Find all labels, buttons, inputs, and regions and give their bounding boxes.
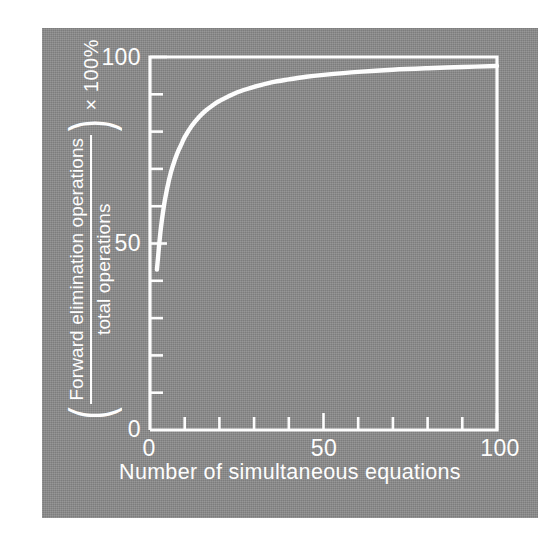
y-tick-label-0: 0 bbox=[128, 416, 141, 442]
fraction-denominator: total operations bbox=[94, 200, 115, 338]
x-tick-label-0: 0 bbox=[142, 435, 155, 461]
x-axis-ticks bbox=[185, 413, 497, 430]
x-axis-title: Number of simultaneous equations bbox=[42, 460, 538, 485]
data-curve-forward-elimination bbox=[157, 66, 497, 270]
figure-panel: 100 50 0 0 50 100 Number of simultaneous… bbox=[42, 28, 538, 518]
y-axis-title: ( Forward elimination operations total o… bbox=[61, 35, 121, 425]
y-axis-multiplier: × 100% bbox=[80, 39, 103, 110]
x-tick-label-50: 50 bbox=[311, 435, 337, 461]
x-tick-label-100: 100 bbox=[480, 435, 520, 461]
figure-page: 100 50 0 0 50 100 Number of simultaneous… bbox=[0, 0, 557, 545]
fraction-numerator: Forward elimination operations bbox=[67, 135, 88, 404]
y-axis-ticks bbox=[150, 57, 167, 393]
fraction-bar bbox=[90, 135, 92, 404]
y-axis-fraction: Forward elimination operations total ope… bbox=[67, 135, 114, 404]
